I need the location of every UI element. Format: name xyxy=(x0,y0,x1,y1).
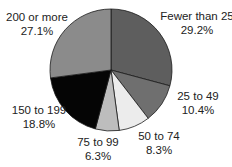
label-25-to-49: 25 to 49 10.4% xyxy=(170,89,226,117)
label-percent: 6.3% xyxy=(70,149,126,163)
label-fewer-than-25: Fewer than 25 29.2% xyxy=(160,9,232,37)
label-percent: 8.3% xyxy=(131,143,187,157)
label-200-or-more: 200 or more 27.1% xyxy=(4,10,70,38)
label-name: 50 to 74 xyxy=(131,129,187,143)
label-name: 75 to 99 xyxy=(70,135,126,149)
label-name: 150 to 199 xyxy=(8,103,70,117)
label-name: 25 to 49 xyxy=(170,89,226,103)
label-75-to-99: 75 to 99 6.3% xyxy=(70,135,126,163)
label-150-to-199: 150 to 199 18.8% xyxy=(8,103,70,131)
label-name: 200 or more xyxy=(4,10,70,24)
label-percent: 10.4% xyxy=(170,103,226,117)
label-percent: 27.1% xyxy=(4,24,70,38)
label-percent: 18.8% xyxy=(8,117,70,131)
label-percent: 29.2% xyxy=(160,23,232,37)
label-name: Fewer than 25 xyxy=(160,9,232,23)
label-50-to-74: 50 to 74 8.3% xyxy=(131,129,187,157)
